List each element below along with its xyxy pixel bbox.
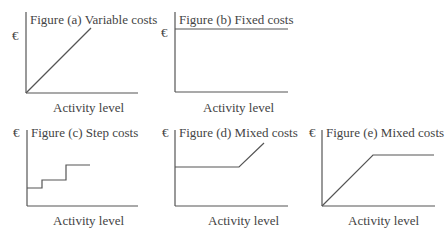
panel-title: Figure (b) Fixed costs — [179, 12, 293, 27]
cost-behaviour-figures: € Figure (a) Variable costs Activity lev… — [0, 0, 447, 241]
x-axis-label: Activity level — [53, 213, 125, 228]
x-axis-label: Activity level — [53, 100, 125, 115]
panel-title: Figure (d) Mixed costs — [179, 125, 298, 140]
panel-d-mixed-costs: € Figure (d) Mixed costs Activity level — [162, 125, 298, 228]
panel-a-variable-costs: € Figure (a) Variable costs Activity lev… — [12, 12, 157, 115]
panel-title: Figure (a) Variable costs — [30, 12, 157, 27]
mixed-cost-line — [175, 143, 264, 167]
euro-label: € — [12, 28, 19, 43]
x-axis-label: Activity level — [208, 213, 280, 228]
panel-c-step-costs: € Figure (c) Step costs Activity level — [13, 125, 138, 228]
x-axis-label: Activity level — [348, 213, 420, 228]
mixed-cost-line — [322, 155, 434, 206]
x-axis-label: Activity level — [203, 100, 275, 115]
euro-label: € — [309, 125, 316, 140]
euro-label: € — [162, 125, 169, 140]
panel-title: Figure (e) Mixed costs — [326, 125, 444, 140]
panel-title: Figure (c) Step costs — [31, 125, 138, 140]
panel-b-fixed-costs: € Figure (b) Fixed costs Activity level — [161, 12, 293, 115]
panel-e-mixed-costs: € Figure (e) Mixed costs Activity level — [309, 125, 444, 228]
euro-label: € — [161, 25, 168, 40]
euro-label: € — [13, 125, 20, 140]
step-cost-line — [27, 165, 90, 188]
variable-cost-line — [26, 28, 91, 93]
